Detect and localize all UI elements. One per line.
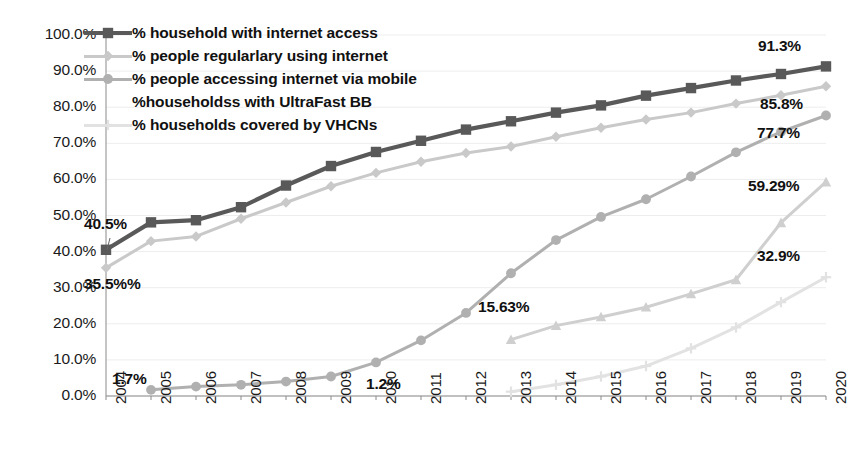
x-axis-tick-label: 2006 bbox=[202, 371, 219, 404]
legend-item[interactable]: % people regularlary using internet bbox=[84, 45, 417, 67]
legend-marker-icon bbox=[84, 22, 132, 44]
y-axis-tick-label: 70.0% bbox=[8, 133, 96, 151]
data-point-label: 59.29% bbox=[748, 177, 799, 195]
legend-item-label: % households covered by VHCNs bbox=[132, 116, 377, 134]
y-axis-tick-label: 50.0% bbox=[8, 206, 96, 224]
legend-marker-icon bbox=[84, 114, 132, 136]
data-point-label: 1.7% bbox=[112, 370, 147, 388]
x-axis-tick-label: 2009 bbox=[337, 371, 354, 404]
y-axis-tick-label: 0.0% bbox=[8, 386, 96, 404]
legend-item-label: % people accessing internet via mobile bbox=[132, 70, 417, 88]
legend-item[interactable]: %householdss with UltraFast BB bbox=[84, 91, 417, 113]
data-point-label: 15.63% bbox=[478, 298, 529, 316]
x-axis-tick-label: 2013 bbox=[517, 371, 534, 404]
data-point-label: 77.7% bbox=[757, 124, 800, 142]
legend-marker-icon bbox=[84, 68, 132, 90]
x-axis-tick-label: 2007 bbox=[247, 371, 264, 404]
x-axis-tick-label: 2008 bbox=[292, 371, 309, 404]
legend-item-label: %householdss with UltraFast BB bbox=[132, 93, 372, 111]
x-axis-tick-label: 2016 bbox=[652, 371, 669, 404]
data-point-label: 40.5% bbox=[84, 215, 127, 233]
legend-marker-icon bbox=[84, 91, 132, 113]
legend-item-label: % household with internet access bbox=[132, 24, 378, 42]
x-axis-tick-label: 2011 bbox=[427, 372, 444, 404]
legend-item[interactable]: % households covered by VHCNs bbox=[84, 114, 417, 136]
legend-item[interactable]: % household with internet access bbox=[84, 22, 417, 44]
data-point-label: 85.8% bbox=[760, 95, 803, 113]
y-axis-tick-label: 30.0% bbox=[8, 278, 96, 296]
legend-marker-icon bbox=[84, 45, 132, 67]
y-axis-tick-label: 100.0% bbox=[8, 25, 96, 43]
legend-item[interactable]: % people accessing internet via mobile bbox=[84, 68, 417, 90]
x-axis-tick-label: 2012 bbox=[472, 371, 489, 404]
y-axis-tick-label: 60.0% bbox=[8, 169, 96, 187]
y-axis-tick-label: 40.0% bbox=[8, 242, 96, 260]
x-axis-tick-label: 2020 bbox=[832, 371, 849, 404]
chart-legend: % household with internet access% people… bbox=[84, 22, 417, 136]
data-point-label: 35.5%% bbox=[84, 275, 141, 293]
x-axis-tick-label: 2017 bbox=[697, 371, 714, 404]
data-point-label: 1.2% bbox=[366, 375, 401, 393]
x-axis-tick-label: 2015 bbox=[607, 371, 624, 404]
legend-item-label: % people regularlary using internet bbox=[132, 47, 388, 65]
x-axis-tick-label: 2018 bbox=[742, 371, 759, 404]
x-axis-tick-label: 2014 bbox=[562, 371, 579, 404]
y-axis-tick-label: 20.0% bbox=[8, 314, 96, 332]
x-axis-tick-label: 2005 bbox=[157, 371, 174, 404]
y-axis-tick-label: 90.0% bbox=[8, 61, 96, 79]
data-point-label: 32.9% bbox=[757, 247, 800, 265]
chart-series bbox=[146, 111, 831, 395]
data-point-label: 91.3% bbox=[758, 37, 801, 55]
y-axis-tick-label: 10.0% bbox=[8, 350, 96, 368]
y-axis-tick-label: 80.0% bbox=[8, 97, 96, 115]
x-axis-tick-label: 2019 bbox=[787, 371, 804, 404]
